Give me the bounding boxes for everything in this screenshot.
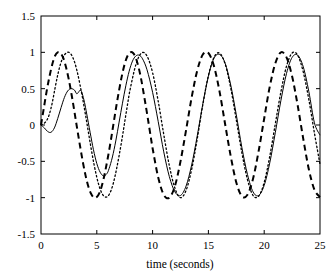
curve-solid-response — [41, 54, 320, 196]
figure-container: 0510152025 -1.5-1-0.500.511.5 time (seco… — [0, 0, 336, 280]
y-tick-label: 1 — [30, 46, 36, 58]
plot-frame — [41, 16, 320, 234]
y-tick-label: -1 — [26, 192, 35, 204]
curve-reference — [41, 52, 320, 198]
x-tick-label: 15 — [203, 239, 215, 251]
x-tick-label: 25 — [315, 239, 327, 251]
x-tick-label: 10 — [147, 239, 159, 251]
y-tick-label: 1.5 — [21, 10, 35, 22]
curve-dotted-response — [41, 52, 320, 198]
y-tick-label: -0.5 — [18, 155, 36, 167]
line-chart: 0510152025 -1.5-1-0.500.511.5 time (seco… — [0, 0, 336, 280]
x-tick-label: 20 — [259, 239, 271, 251]
axes-frame — [41, 16, 320, 234]
x-axis-title: time (seconds) — [146, 258, 214, 271]
x-tick-label: 5 — [94, 239, 100, 251]
x-tick-label: 0 — [38, 239, 44, 251]
y-tick-label: -1.5 — [18, 228, 36, 240]
y-tick-label: 0 — [30, 119, 36, 131]
data-curves — [41, 52, 320, 198]
y-tick-label: 0.5 — [21, 83, 35, 95]
